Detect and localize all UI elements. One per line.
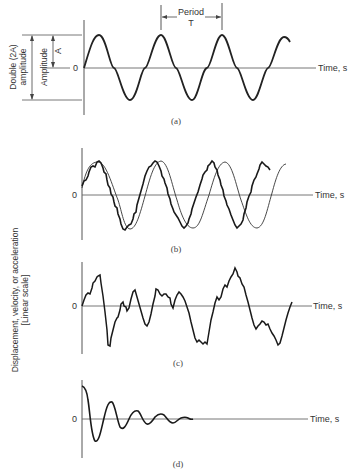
amplitude-label-text: Amplitude bbox=[39, 48, 49, 86]
panel-c-time-label: Time, s bbox=[313, 301, 343, 311]
amplitude-symbol-text: A bbox=[53, 48, 63, 54]
y-axis-label-line2: [Linear scale] bbox=[20, 275, 30, 326]
panel-b: 0 Time, s (b) bbox=[72, 148, 345, 254]
panel-c: 0 Time, s (c) bbox=[72, 262, 343, 368]
double-amplitude-arrowhead-up-icon bbox=[30, 35, 34, 41]
amplitude-arrowhead-up-icon bbox=[51, 35, 55, 41]
panel-d-zero-label: 0 bbox=[72, 414, 77, 424]
panel-a-zero-label: 0 bbox=[73, 63, 78, 73]
panel-d-caption: (d) bbox=[173, 459, 184, 469]
panel-d: 0 Time, s (d) bbox=[72, 380, 340, 469]
amplitude-symbol: A bbox=[53, 48, 63, 54]
panel-d-time-label: Time, s bbox=[310, 414, 340, 424]
panel-a-sine-wave bbox=[84, 35, 290, 100]
panel-a-caption: (a) bbox=[171, 116, 181, 126]
double-amplitude-label: Double (2A) amplitude bbox=[8, 44, 28, 90]
panel-d-damped-wave bbox=[82, 386, 193, 441]
amplitude-arrowhead-down-icon bbox=[51, 62, 55, 68]
panel-c-caption: (c) bbox=[173, 358, 183, 368]
panel-b-zero-label: 0 bbox=[72, 190, 77, 200]
double-amplitude-label-line2: amplitude bbox=[18, 48, 28, 85]
global-y-axis-label: Displacement, velocity, or acceleration … bbox=[10, 228, 30, 373]
panel-c-zero-label: 0 bbox=[72, 301, 77, 311]
period-label: Period bbox=[178, 7, 204, 17]
panel-b-caption: (b) bbox=[171, 244, 182, 254]
period-symbol: T bbox=[188, 18, 194, 28]
panel-a: 0 Time, s Period T Double (2A) amplitude… bbox=[8, 3, 348, 126]
period-arrowhead-right-icon bbox=[216, 15, 221, 19]
amplitude-label: Amplitude bbox=[39, 48, 49, 86]
double-amplitude-arrowhead-down-icon bbox=[30, 94, 34, 100]
y-axis-label-line1: Displacement, velocity, or acceleration bbox=[10, 228, 20, 373]
vibration-waveforms-figure: Displacement, velocity, or acceleration … bbox=[0, 0, 353, 475]
panel-a-time-label: Time, s bbox=[318, 63, 348, 73]
double-amplitude-label-line1: Double (2A) bbox=[8, 44, 18, 90]
panel-c-random-wave bbox=[82, 268, 292, 346]
period-arrowhead-left-icon bbox=[162, 15, 167, 19]
panel-b-time-label: Time, s bbox=[315, 190, 345, 200]
